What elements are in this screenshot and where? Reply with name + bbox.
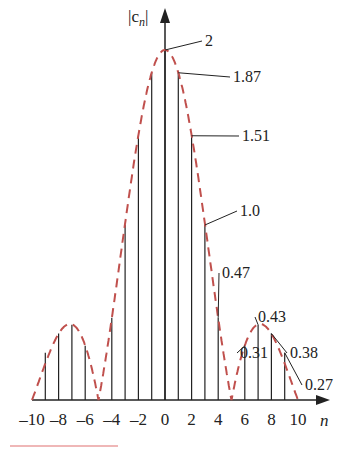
value-annotation: 1.51 [242, 127, 270, 144]
x-tick-label: –6 [76, 410, 94, 429]
annotation-leader [218, 273, 219, 318]
value-annotation: 1.87 [233, 68, 261, 85]
y-axis-arrow-icon [160, 8, 170, 23]
value-annotation: 0.31 [240, 344, 268, 361]
x-tick-label: 2 [187, 410, 196, 429]
x-tick-label: 8 [267, 410, 276, 429]
x-tick-label: –4 [102, 410, 121, 429]
x-tick-label: 4 [214, 410, 223, 429]
x-tick-label: –8 [49, 410, 67, 429]
annotation-leader [165, 41, 202, 50]
line-spectrum-chart: –10–8–6–4–20246810n|cn|21.871.511.00.470… [0, 0, 353, 455]
x-tick-label: –10 [18, 410, 45, 429]
x-tick-label: –2 [129, 410, 147, 429]
x-axis-arrow-icon [316, 395, 330, 405]
value-annotation: 1.0 [240, 202, 260, 219]
y-axis-label: |cn| [128, 7, 148, 29]
x-axis-label: n [320, 411, 329, 430]
annotation-leader [178, 73, 230, 77]
x-tick-label: 6 [241, 410, 250, 429]
annotation-leader [205, 211, 237, 225]
value-annotation: 0.27 [305, 376, 333, 393]
x-tick-label: 10 [290, 410, 307, 429]
x-tick-label: 0 [161, 410, 170, 429]
value-annotation: 0.38 [290, 344, 318, 361]
value-annotation: 2 [205, 32, 213, 49]
value-annotation: 0.43 [258, 308, 286, 325]
value-annotation: 0.47 [222, 264, 250, 281]
